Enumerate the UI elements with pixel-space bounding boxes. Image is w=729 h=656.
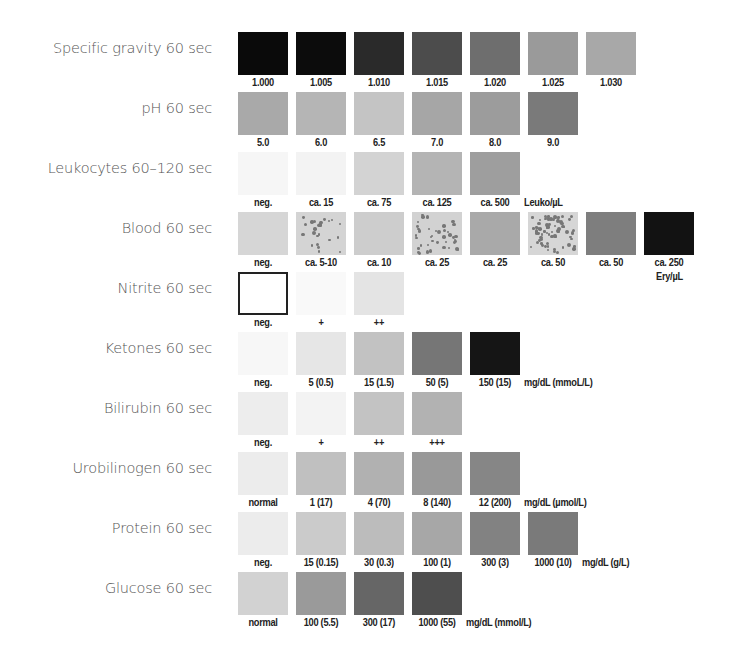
swatch-value-label: 1.020 [469,76,520,88]
speckle-dot [442,246,446,250]
speckle-dot [530,246,532,248]
speckle-dot [431,235,434,238]
speckle-dot [429,249,432,252]
unit-label: Leuko/µL [524,196,563,208]
test-row: Protein 60 secneg.15 (0.15)30 (0.3)100 (… [0,512,729,572]
speckle-dot [421,214,423,216]
speckle-dot [448,233,452,237]
color-swatch [238,92,288,135]
color-swatch [238,392,288,435]
swatch-value-label: ca. 75 [353,196,404,208]
color-swatch [296,152,346,195]
color-swatch [354,392,404,435]
swatch-value-label: 150 (15) [469,376,520,388]
speckle-dot [570,215,573,218]
swatch-value-label: neg. [237,196,288,208]
speckle-dot [448,247,451,250]
test-name-label: Blood 60 sec [122,220,212,236]
color-swatch [296,392,346,435]
speckle-dot [418,229,421,232]
speckle-dot [316,235,318,237]
color-swatch [296,512,346,555]
speckle-dot [312,231,316,235]
speckle-dot [328,220,330,222]
speckle-dot [571,231,575,235]
speckle-dot [537,222,540,225]
color-swatch [296,272,346,315]
color-swatch [470,212,520,255]
swatch-value-label: 1.030 [585,76,636,88]
speckle-dot [565,230,569,234]
test-row: Glucose 60 secnormal100 (5.5)300 (17)100… [0,572,729,632]
speckle-dot [547,245,549,247]
speckle-pattern [528,212,578,255]
speckle-pattern [296,212,346,255]
swatch-value-label: 1.000 [237,76,288,88]
speckle-dot [567,243,571,247]
swatch-value-label: ca. 250 [643,256,694,268]
swatch-value-label: ++ [353,316,404,328]
color-swatch [586,212,636,255]
speckle-dot [561,225,565,229]
speckle-dot [337,236,339,238]
speckle-dot [427,244,429,246]
swatch-value-label: 6.0 [295,136,346,148]
speckle-dot [539,219,541,221]
swatch-value-label: neg. [237,316,288,328]
test-row: Blood 60 secneg.ca. 5-10ca. 10ca. 25ca. … [0,212,729,272]
color-swatch [528,32,578,75]
swatch-value-label: 1000 (55) [411,616,462,628]
speckle-dot [570,238,572,240]
speckle-dot [415,237,418,240]
speckle-dot [557,230,560,233]
color-swatch [470,452,520,495]
speckle-dot [554,225,556,227]
speckle-dot [553,234,556,237]
speckle-dot [304,223,307,226]
speckle-dot [541,244,544,247]
swatch-value-label: ca. 10 [353,256,404,268]
speckle-pattern [412,212,462,255]
color-swatch [354,32,404,75]
swatch-value-label: ca. 25 [411,256,462,268]
swatch-value-label: neg. [237,256,288,268]
swatch-value-label: + [295,436,346,448]
swatch-value-label: ++ [353,436,404,448]
unit-label: mg/dL (mmol/L) [466,616,531,628]
swatch-value-label: normal [237,496,288,508]
test-name-label: Bilirubin 60 sec [104,400,212,416]
swatch-value-label: normal [237,616,288,628]
speckle-dot [339,251,341,253]
color-swatch [354,332,404,375]
speckle-dot [536,227,538,229]
speckle-dot [436,241,439,244]
speckle-dot [562,246,564,248]
swatch-value-label: 5 (0.5) [295,376,346,388]
speckle-dot [552,218,555,221]
test-row: Bilirubin 60 secneg.++++++ [0,392,729,452]
test-row: pH 60 sec5.06.06.57.08.09.0 [0,92,729,152]
speckle-dot [445,241,447,243]
speckle-dot [331,219,333,221]
swatch-value-label: 300 (17) [353,616,404,628]
speckle-dot [328,239,331,242]
speckle-dot [431,240,433,242]
color-swatch [354,452,404,495]
speckle-dot [551,231,553,233]
color-swatch [412,572,462,615]
color-swatch [412,332,462,375]
swatch-value-label: + [295,316,346,328]
speckle-dot [442,224,445,227]
swatch-value-label: 6.5 [353,136,404,148]
speckle-dot [572,247,575,250]
color-swatch [470,332,520,375]
unit-label: mg/dL (mmoL/L) [524,376,593,388]
color-swatch [412,212,462,255]
color-swatch [296,572,346,615]
test-row: Specific gravity 60 sec1.0001.0051.0101.… [0,32,729,92]
speckle-dot [302,216,305,219]
color-swatch [412,452,462,495]
speckle-dot [544,245,547,248]
speckle-dot [417,221,419,223]
speckle-dot [313,220,316,223]
